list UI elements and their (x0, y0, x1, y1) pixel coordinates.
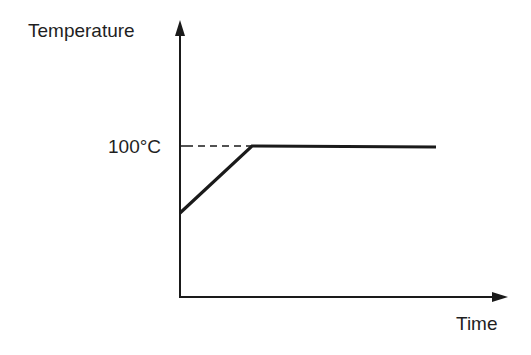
temperature-curve (180, 146, 436, 213)
y-tick-label-100c: 100°C (108, 137, 161, 156)
x-axis-label: Time (456, 314, 498, 333)
temperature-time-diagram: Temperature 100°C Time (0, 0, 531, 355)
x-axis-arrow-icon (492, 292, 508, 302)
diagram-canvas (0, 0, 531, 355)
y-axis-arrow-icon (175, 20, 185, 36)
y-axis-label: Temperature (28, 21, 135, 40)
